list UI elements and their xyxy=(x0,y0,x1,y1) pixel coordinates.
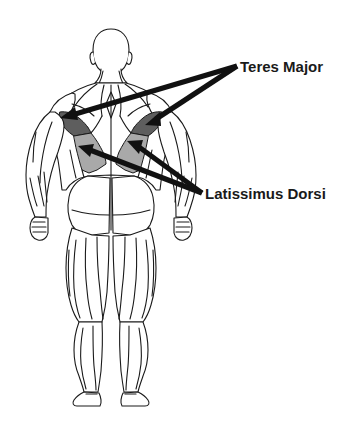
label-teres-major: Teres Major xyxy=(240,58,323,75)
head-outline xyxy=(93,29,129,71)
thigh-right-outline xyxy=(113,228,156,322)
anatomy-diagram-svg: Teres Major Latissimus Dorsi xyxy=(0,0,350,425)
hand-left-outline xyxy=(30,217,48,240)
thigh-left-outline xyxy=(66,228,109,322)
anatomy-figure: Teres Major Latissimus Dorsi xyxy=(0,0,350,425)
hand-right-outline xyxy=(174,217,192,240)
glute-left-outline xyxy=(68,176,110,235)
glute-right-outline xyxy=(112,176,154,235)
label-latissimus-dorsi: Latissimus Dorsi xyxy=(205,185,326,202)
